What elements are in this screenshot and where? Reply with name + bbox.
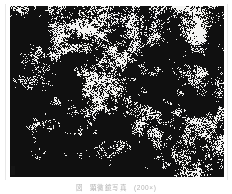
figure-caption: 図 顕微鏡写真 (200×) xyxy=(0,183,232,192)
caption-magnification: (200×) xyxy=(134,184,157,191)
micrograph-image xyxy=(10,6,224,177)
micrograph-plate xyxy=(10,6,224,177)
caption-text: 顕微鏡写真 xyxy=(90,184,128,191)
page-margin-rule-right xyxy=(227,4,228,180)
plate-corner-mark xyxy=(11,166,15,175)
caption-label: 図 xyxy=(76,184,84,191)
micrograph-figure: 図 顕微鏡写真 (200×) xyxy=(0,0,232,194)
page-margin-rule-left xyxy=(5,4,6,180)
figure-page: 図 顕微鏡写真 (200×) xyxy=(0,0,232,194)
